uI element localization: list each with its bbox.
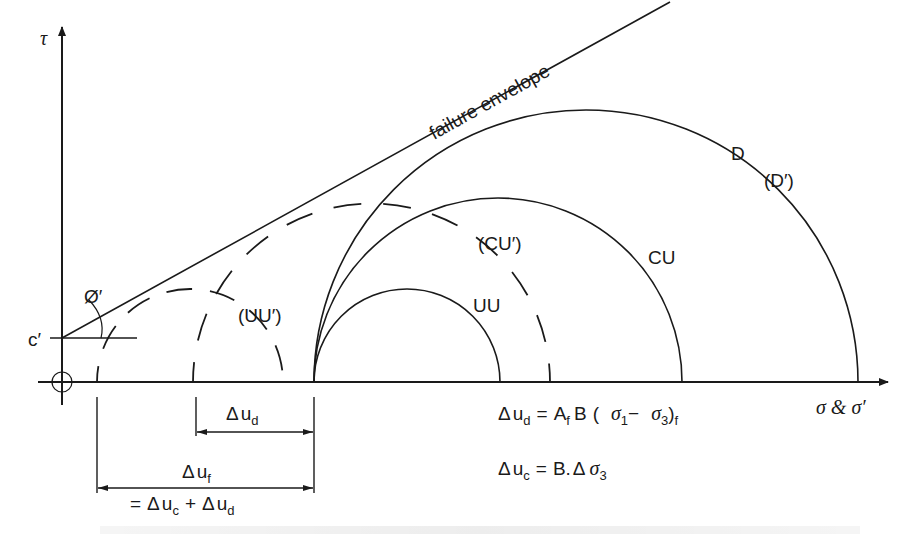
label-cu: CU: [648, 247, 675, 268]
cropped-caption-line: [100, 526, 860, 534]
cohesion-label: c′: [28, 329, 42, 350]
mohr-circle-diagram: τ σ & σ′ c′ Ø′ failure envelope UU CU D …: [0, 0, 912, 539]
tau-axis-label: τ: [40, 27, 48, 49]
label-uu-effective: (UU′): [238, 305, 282, 326]
circle-d: [314, 110, 858, 382]
du-f-equation: =Δuc+Δud: [130, 493, 235, 518]
label-uu: UU: [473, 295, 500, 316]
label-d: D: [731, 143, 745, 164]
failure-envelope-line: [62, 2, 670, 338]
du-f-label: Δuf: [182, 461, 211, 486]
failure-envelope-label: failure envelope: [426, 60, 554, 143]
sigma-axis-label: σ & σ′: [816, 396, 866, 418]
circle-cu: [314, 198, 682, 382]
equation-du-d: Δud=AfB(σ1−σ3)f: [498, 402, 679, 428]
label-cu-effective: (CU′): [478, 233, 522, 254]
label-d-effective: (D′): [764, 170, 794, 191]
equation-du-c: Δuc=B.Δσ3: [498, 457, 607, 483]
friction-angle-label: Ø′: [84, 286, 103, 307]
du-d-label: Δud: [226, 403, 259, 428]
